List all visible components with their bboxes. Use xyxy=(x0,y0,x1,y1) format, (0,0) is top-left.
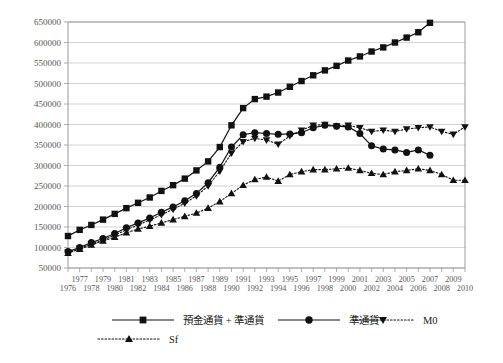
data-point-marker-triangle-down xyxy=(286,133,294,140)
data-point-marker-square xyxy=(112,211,118,217)
data-point-marker-circle xyxy=(263,130,270,137)
chart-legend: 預金通貨 + 準通貨準通貨M0Sf xyxy=(98,314,438,345)
data-point-marker-triangle-up xyxy=(228,190,236,197)
legend-label: M0 xyxy=(423,315,438,326)
data-point-marker-triangle-up xyxy=(333,165,341,172)
series-line xyxy=(68,23,430,236)
data-point-marker-square xyxy=(403,34,409,40)
data-point-marker-triangle-down xyxy=(216,168,224,175)
x-axis-tick-label: 1981 xyxy=(118,275,134,284)
data-point-marker-square xyxy=(287,84,293,90)
x-axis-tick-label: 1992 xyxy=(247,284,263,293)
x-axis-tick-label: 1988 xyxy=(200,284,216,293)
data-point-marker-triangle-up xyxy=(239,181,247,188)
y-axis-tick-label: 550000 xyxy=(34,58,62,68)
y-axis-tick-label: 600000 xyxy=(34,38,62,48)
data-point-marker-square xyxy=(158,188,164,194)
y-axis-tick-label: 500000 xyxy=(34,79,62,89)
data-point-marker-circle xyxy=(380,146,387,153)
x-axis-tick-label: 2006 xyxy=(410,284,426,293)
data-series xyxy=(64,122,469,257)
line-chart: 5000010000015000020000025000030000035000… xyxy=(0,0,503,363)
data-point-marker-square xyxy=(88,222,94,228)
data-point-marker-square xyxy=(147,194,153,200)
x-axis-tick-label: 2001 xyxy=(352,275,368,284)
legend-entry[interactable]: Sf xyxy=(98,334,179,345)
x-axis-tick-label: 2007 xyxy=(422,275,438,284)
data-point-marker-square xyxy=(345,57,351,63)
data-point-marker-square xyxy=(310,72,316,78)
data-point-marker-triangle-up xyxy=(216,198,224,205)
data-series xyxy=(65,122,434,255)
data-series-group xyxy=(64,20,469,257)
data-point-marker-circle xyxy=(368,142,375,149)
data-point-marker-triangle-up xyxy=(158,219,166,226)
data-point-marker-circle xyxy=(426,152,433,159)
data-point-marker-triangle-up xyxy=(204,204,212,211)
x-axis-tick-label: 2003 xyxy=(375,275,391,284)
data-point-marker-square xyxy=(76,227,82,233)
data-point-marker-triangle-up xyxy=(391,168,399,175)
data-point-marker-triangle-down xyxy=(158,212,166,219)
data-point-marker-square xyxy=(275,89,281,95)
y-axis-tick-label: 350000 xyxy=(34,140,62,150)
data-point-marker-square xyxy=(100,216,106,222)
data-point-marker-circle xyxy=(391,146,398,153)
data-point-marker-circle xyxy=(305,316,312,323)
y-axis-tick-label: 450000 xyxy=(34,99,62,109)
x-axis-tick-label: 2010 xyxy=(457,284,473,293)
data-point-marker-square xyxy=(298,78,304,84)
data-point-marker-triangle-up xyxy=(193,209,201,216)
legend-label: Sf xyxy=(169,334,179,345)
data-point-marker-triangle-up xyxy=(181,213,189,220)
y-axis-tick-label: 200000 xyxy=(34,202,62,212)
data-point-marker-triangle-down xyxy=(438,129,446,136)
x-axis-tick-label: 2002 xyxy=(363,284,379,293)
data-point-marker-triangle-down xyxy=(450,132,458,139)
y-axis-tick-label: 250000 xyxy=(34,181,62,191)
x-axis-tick-label: 1976 xyxy=(60,284,76,293)
data-point-marker-square xyxy=(123,205,129,211)
x-axis-tick-label: 1977 xyxy=(71,275,87,284)
x-axis-tick-label: 2004 xyxy=(387,284,403,293)
y-axis-tick-label: 100000 xyxy=(34,243,62,253)
data-point-marker-square xyxy=(193,167,199,173)
x-axis-tick-label: 2008 xyxy=(433,284,449,293)
data-point-marker-square xyxy=(182,175,188,181)
y-axis-tick-label: 300000 xyxy=(34,161,62,171)
x-axis-tick-label: 1999 xyxy=(328,275,344,284)
data-point-marker-circle xyxy=(251,129,258,136)
chart-canvas: 5000010000015000020000025000030000035000… xyxy=(0,0,503,363)
data-point-marker-triangle-down xyxy=(169,207,177,214)
data-point-marker-square xyxy=(252,96,258,102)
data-point-marker-triangle-up xyxy=(263,173,271,180)
x-axis-tick-label: 1995 xyxy=(282,275,298,284)
data-point-marker-triangle-down xyxy=(228,150,236,157)
data-point-marker-square xyxy=(217,144,223,150)
data-point-marker-triangle-down xyxy=(181,200,189,207)
data-point-marker-square xyxy=(415,29,421,35)
data-point-marker-square xyxy=(240,105,246,111)
data-point-marker-square xyxy=(368,48,374,54)
data-point-marker-square xyxy=(263,93,269,99)
legend-entry[interactable]: 預金通貨 + 準通貨 xyxy=(112,314,264,326)
data-point-marker-triangle-down xyxy=(239,139,247,146)
data-point-marker-square xyxy=(65,233,71,239)
data-point-marker-square xyxy=(140,317,147,324)
x-axis-tick-labels: 1976197719781979198019811982198319841985… xyxy=(60,275,473,293)
x-axis-tick-label: 1989 xyxy=(212,275,228,284)
x-axis-tick-label: 1996 xyxy=(293,284,309,293)
y-axis-tick-label: 650000 xyxy=(34,17,62,27)
data-point-marker-square xyxy=(427,20,433,26)
x-axis-tick-label: 1986 xyxy=(177,284,193,293)
data-point-marker-square xyxy=(380,44,386,50)
x-axis-tick-label: 1987 xyxy=(188,275,204,284)
x-axis-tick-label: 1990 xyxy=(223,284,239,293)
x-axis-tick-label: 2005 xyxy=(398,275,414,284)
data-point-marker-triangle-down xyxy=(461,124,469,131)
data-point-marker-square xyxy=(333,63,339,69)
x-axis-tick-label: 1983 xyxy=(142,275,158,284)
data-point-marker-square xyxy=(170,182,176,188)
data-point-marker-triangle-down xyxy=(403,126,411,133)
data-point-marker-square xyxy=(392,39,398,45)
